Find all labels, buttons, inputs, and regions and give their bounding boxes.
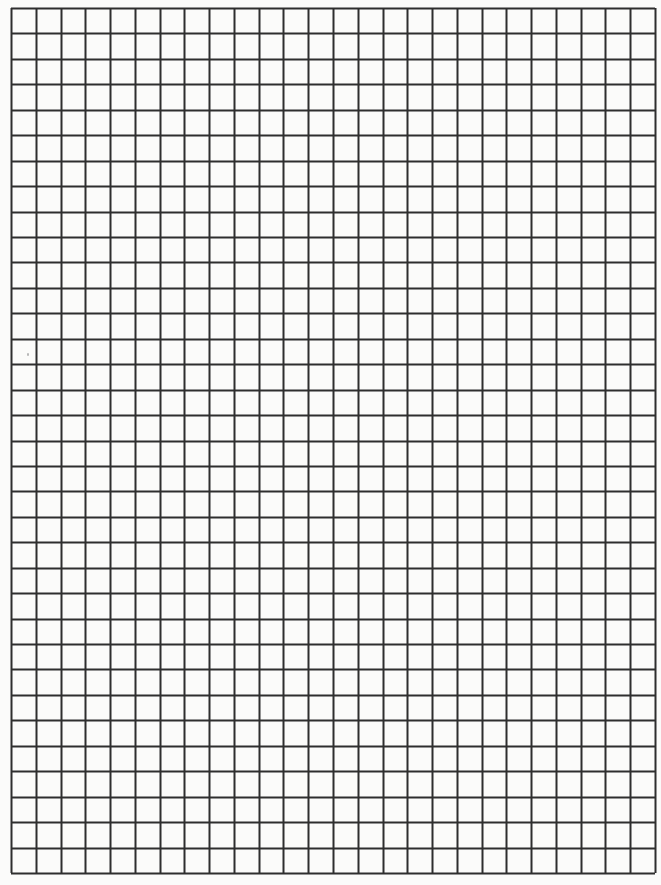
paper-speck bbox=[27, 353, 29, 356]
grid-paper-page bbox=[0, 0, 661, 885]
grid bbox=[0, 0, 661, 885]
